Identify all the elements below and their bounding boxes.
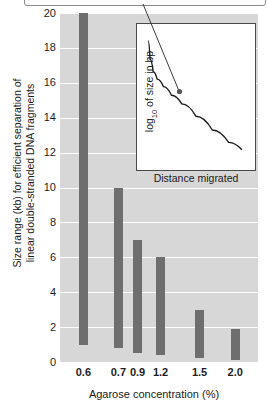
bar-0.7 bbox=[114, 188, 123, 349]
inset-plot: log10 of size in bp bbox=[136, 23, 256, 171]
figure-agarose-size-range: 20181614121086420 Size range (kb) for ef… bbox=[0, 0, 268, 406]
inset-migration-curve bbox=[148, 41, 242, 150]
inset-y-axis-title-log: log bbox=[143, 118, 155, 132]
x-axis-ticks: 0.60.70.91.21.52.0 bbox=[60, 366, 258, 382]
inset-x-axis-title: Distance migrated bbox=[122, 172, 268, 184]
bar-1.2 bbox=[156, 257, 165, 355]
y-tick-20: 20 bbox=[30, 8, 56, 19]
bar-0.9 bbox=[133, 240, 142, 353]
y-tick-18: 18 bbox=[30, 42, 56, 53]
inset-y-axis-title-sub: 10 bbox=[150, 110, 159, 118]
gridline bbox=[60, 362, 258, 363]
x-tick-1.2: 1.2 bbox=[141, 366, 181, 378]
x-tick-0.6: 0.6 bbox=[63, 366, 103, 378]
bar-0.6 bbox=[79, 13, 88, 345]
y-tick-0: 0 bbox=[30, 357, 56, 368]
y-axis-title-line1: Size range (kb) for efficient separation… bbox=[11, 53, 24, 293]
gridline bbox=[60, 13, 258, 14]
bar-2.0 bbox=[231, 329, 240, 360]
x-tick-1.5: 1.5 bbox=[180, 366, 220, 378]
gridline bbox=[60, 222, 258, 223]
y-axis-title: Size range (kb) for efficient separation… bbox=[11, 53, 37, 293]
inset-y-axis-title: log10 of size in bp bbox=[143, 21, 158, 163]
x-axis-title: Agarose concentration (%) bbox=[40, 388, 268, 400]
gridline bbox=[60, 188, 258, 189]
inset-y-axis-title-rest: of size in bp bbox=[143, 51, 155, 110]
x-tick-2.0: 2.0 bbox=[215, 366, 255, 378]
bar-1.5 bbox=[195, 310, 204, 359]
callout-box bbox=[24, 0, 266, 6]
y-tick-2: 2 bbox=[30, 322, 56, 333]
y-axis-title-line2: linear double-stranded DNA fragments bbox=[24, 53, 37, 293]
